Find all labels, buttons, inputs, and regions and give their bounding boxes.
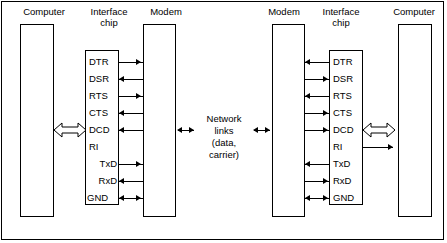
- signal-label-rts-right: RTS: [333, 91, 363, 101]
- arrowhead-rts-left: [136, 93, 141, 99]
- arrowhead-gnd-left-start: [119, 195, 124, 201]
- arrowhead-cts-left: [119, 110, 124, 116]
- header-computer-right: Computer: [382, 6, 446, 17]
- computer-box-left: [20, 24, 54, 217]
- arrowhead-txd-right: [305, 161, 310, 167]
- signal-label-dtr-right: DTR: [333, 57, 363, 67]
- signal-label-dcd-right: DCD: [333, 125, 363, 135]
- serial-interface-diagram: Computer Interface chip Modem Modem Inte…: [0, 0, 447, 243]
- arrowhead-cts-right: [323, 110, 328, 116]
- header-interface-chip-left: Interface chip: [80, 6, 138, 28]
- header-modem-right: Modem: [258, 6, 310, 17]
- modem-box-right: [272, 24, 305, 217]
- arrowhead-dcd-left: [119, 127, 124, 133]
- header-modem-left: Modem: [140, 6, 192, 17]
- arrowhead-dtr-right: [305, 59, 310, 65]
- signal-label-txd-left: TxD: [87, 159, 117, 169]
- arrowhead-rts-right: [305, 93, 310, 99]
- arrowhead-gnd-right-end: [323, 195, 328, 201]
- network-arrowhead-left-start: [177, 127, 182, 133]
- signal-label-rxd-right: RxD: [333, 176, 363, 186]
- signal-label-dtr-left: DTR: [89, 57, 119, 67]
- computer-interface-link-left: [54, 121, 86, 139]
- arrowhead-dtr-left: [136, 59, 141, 65]
- arrowhead-dsr-right: [323, 76, 328, 82]
- signal-label-dsr-right: DSR: [333, 74, 363, 84]
- header-interface-chip-right: Interface chip: [312, 6, 370, 28]
- arrowhead-gnd-left-end: [136, 195, 141, 201]
- signal-label-gnd-left: GND: [87, 193, 119, 203]
- header-computer-left: Computer: [12, 6, 76, 17]
- modem-box-left: [143, 24, 176, 217]
- signal-label-txd-right: TxD: [333, 159, 363, 169]
- signal-label-rxd-left: RxD: [87, 176, 117, 186]
- network-arrowhead-right-end: [265, 127, 270, 133]
- network-links-label: Network links (data, carrier): [196, 113, 252, 161]
- signal-label-ri-left: RI: [89, 142, 119, 152]
- signal-label-dcd-left: DCD: [89, 125, 119, 135]
- network-arrowhead-left-end: [189, 127, 194, 133]
- network-arrowhead-right-start: [253, 127, 258, 133]
- arrowhead-txd-left: [136, 161, 141, 167]
- signal-label-gnd-right: GND: [333, 193, 365, 203]
- signal-label-cts-right: CTS: [333, 108, 363, 118]
- signal-label-ri-right: RI: [333, 142, 363, 152]
- signal-label-cts-left: CTS: [89, 108, 119, 118]
- computer-interface-link-right: [363, 121, 395, 139]
- signal-label-dsr-left: DSR: [89, 74, 119, 84]
- arrowhead-rxd-left: [119, 178, 124, 184]
- arrowhead-rxd-right: [323, 178, 328, 184]
- signal-label-rts-left: RTS: [89, 91, 119, 101]
- arrowhead-ri-right: [388, 144, 393, 150]
- arrowhead-dcd-right: [323, 127, 328, 133]
- arrowhead-gnd-right-start: [305, 195, 310, 201]
- computer-box-right: [398, 24, 432, 217]
- arrowhead-dsr-left: [119, 76, 124, 82]
